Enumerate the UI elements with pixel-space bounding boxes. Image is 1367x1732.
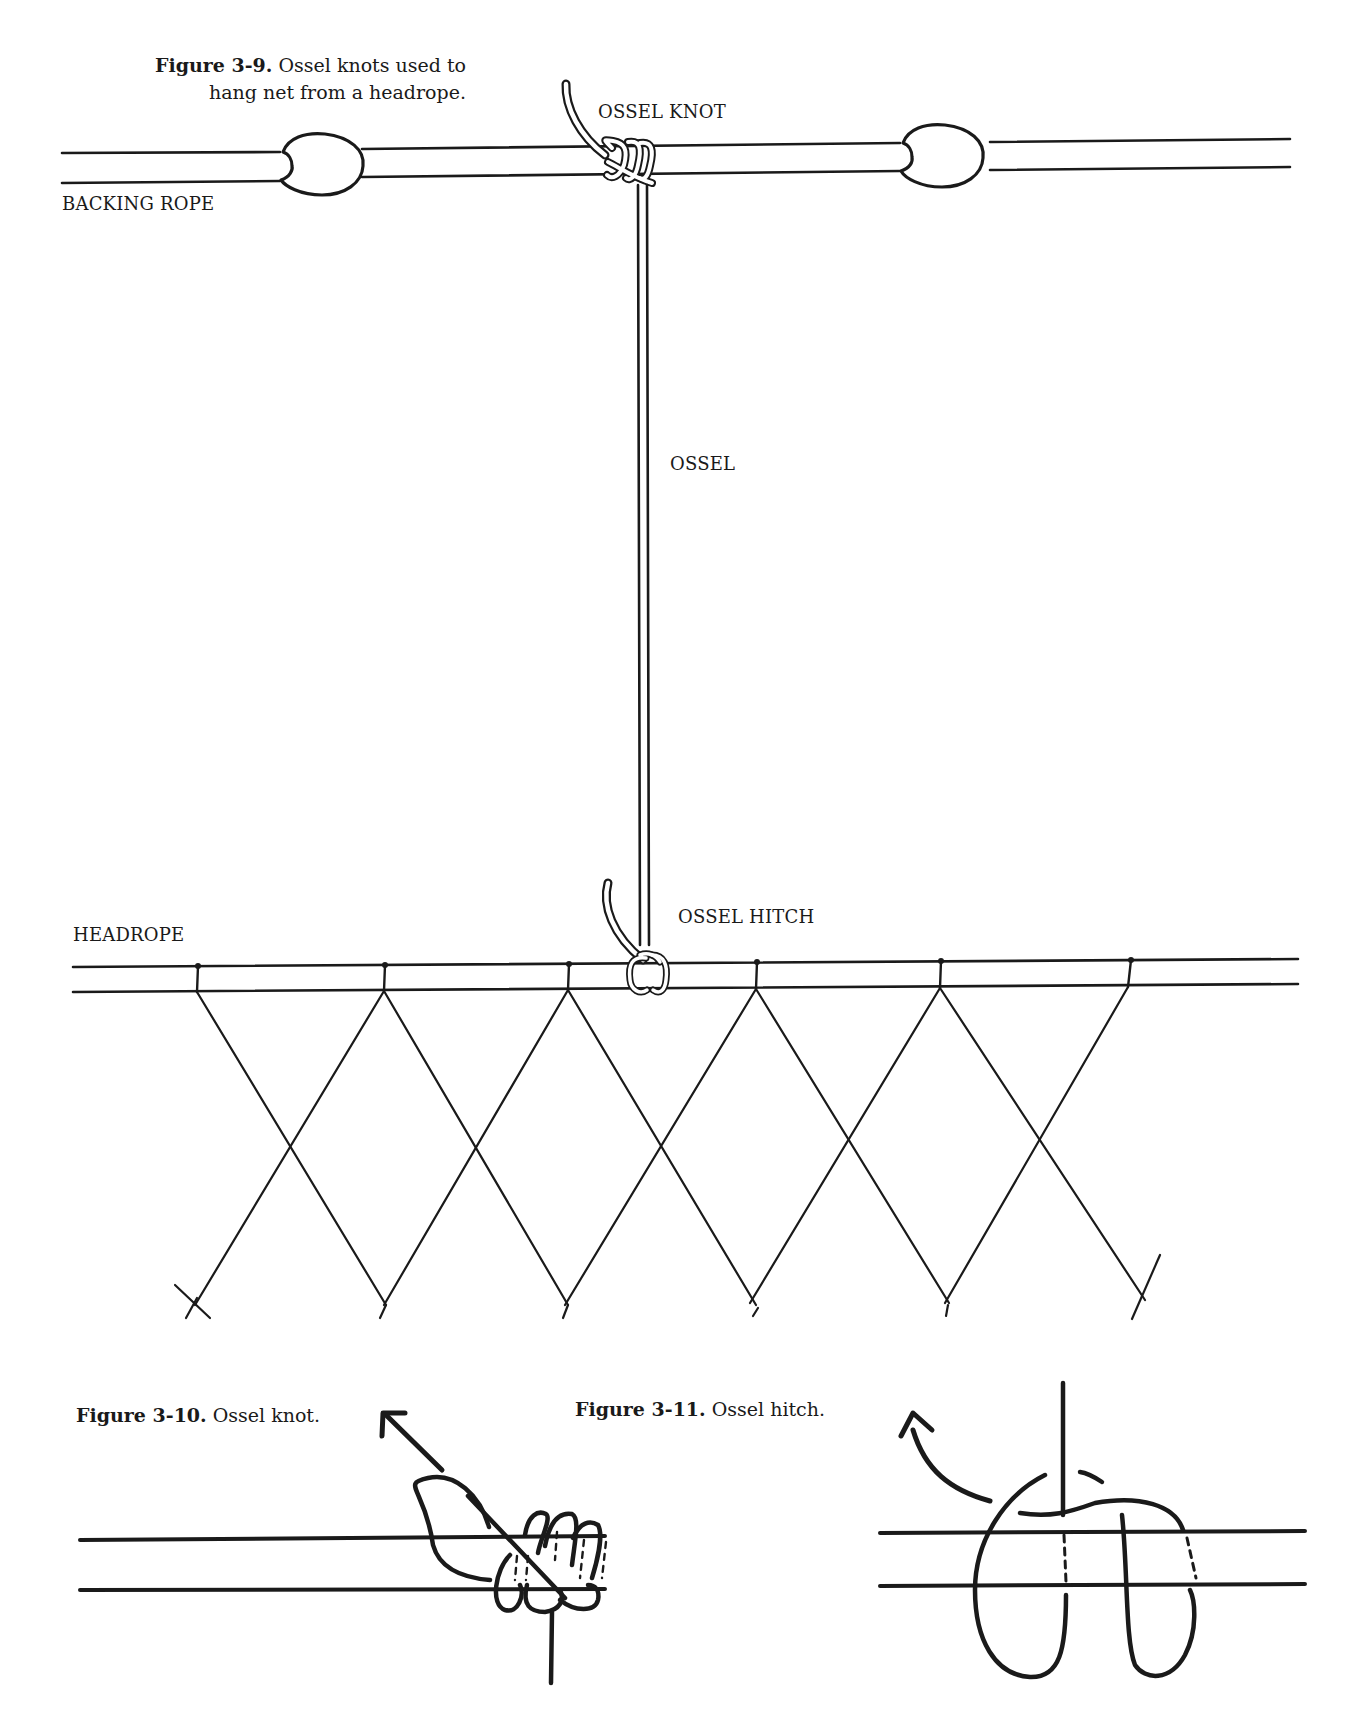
diagram-drawing (0, 0, 1367, 1732)
ossel-knot-icon (566, 84, 652, 183)
fig-3-11-rope (880, 1531, 1305, 1586)
net-mesh (175, 987, 1160, 1319)
ossel-line (638, 185, 649, 945)
fig-3-10-rope (80, 1536, 605, 1590)
fig-3-10-arrow-icon (382, 1413, 442, 1470)
ossel-hitch-icon (606, 883, 666, 992)
fig-3-11-arrow-icon (901, 1413, 990, 1501)
backing-rope (62, 139, 1290, 183)
fig-3-10-ossel-knot-icon (408, 1475, 606, 1683)
float-icon (901, 125, 983, 187)
headrope (73, 959, 1298, 992)
float-icon (281, 134, 363, 195)
diagram-canvas: Figure 3-9. Ossel knots used to hang net… (0, 0, 1367, 1732)
